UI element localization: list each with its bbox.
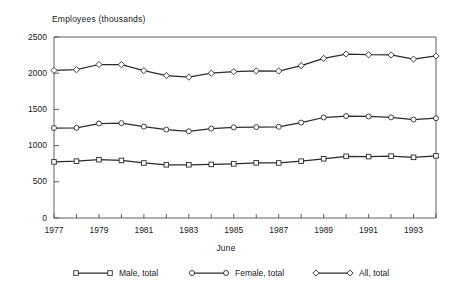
- legend-marker-end: [108, 271, 113, 276]
- data-point-marker: [254, 161, 259, 166]
- y-tick-label: 1000: [17, 140, 47, 150]
- legend-symbol-circle-icon: [188, 267, 230, 279]
- data-point-marker: [97, 157, 102, 162]
- x-tick-label: 1989: [304, 225, 344, 235]
- data-point-marker: [434, 116, 439, 121]
- data-point-marker: [186, 74, 192, 80]
- series-female-total: [52, 114, 439, 134]
- data-point-marker: [231, 125, 236, 130]
- data-point-marker: [186, 129, 191, 134]
- data-point-marker: [298, 62, 304, 68]
- legend-marker-end: [347, 270, 353, 276]
- data-point-marker: [276, 68, 282, 74]
- y-tick-label: 2500: [17, 32, 47, 42]
- data-point-marker: [74, 159, 79, 164]
- x-tick-label: 1977: [34, 225, 74, 235]
- legend-marker-start: [74, 271, 79, 276]
- legend-item-female-total[interactable]: Female, total: [188, 264, 284, 282]
- x-tick-label: 1991: [349, 225, 389, 235]
- x-tick-label: 1993: [394, 225, 434, 235]
- x-tick-label: 1981: [124, 225, 164, 235]
- data-point-marker: [231, 69, 237, 75]
- plot-area: [0, 0, 452, 299]
- series-line: [54, 116, 436, 131]
- series-all-total: [51, 51, 439, 80]
- data-point-marker: [276, 124, 281, 129]
- legend-item-all-total[interactable]: All, total: [312, 264, 389, 282]
- data-point-marker: [299, 159, 304, 164]
- data-series: [51, 51, 439, 167]
- data-point-marker: [96, 121, 101, 126]
- x-tick-label: 1985: [214, 225, 254, 235]
- data-point-marker: [74, 125, 79, 130]
- data-point-marker: [321, 55, 327, 61]
- legend-symbol-diamond-icon: [312, 267, 354, 279]
- legend-label: Female, total: [235, 268, 284, 278]
- legend-label: Male, total: [119, 268, 158, 278]
- x-tick-label: 1979: [79, 225, 119, 235]
- data-point-marker: [231, 162, 236, 167]
- data-point-marker: [343, 51, 349, 57]
- data-point-marker: [164, 162, 169, 167]
- data-point-marker: [411, 155, 416, 160]
- data-point-marker: [119, 121, 124, 126]
- series-male-total: [52, 154, 439, 168]
- data-point-marker: [119, 158, 124, 163]
- data-point-marker: [366, 154, 371, 159]
- data-point-marker: [164, 127, 169, 132]
- data-point-marker: [434, 154, 439, 159]
- data-point-marker: [344, 114, 349, 119]
- data-point-marker: [209, 162, 214, 167]
- data-point-marker: [344, 154, 349, 159]
- data-point-marker: [163, 72, 169, 78]
- chart-legend: Male, totalFemale, totalAll, total: [0, 262, 452, 284]
- legend-item-male-total[interactable]: Male, total: [72, 264, 158, 282]
- legend-marker-start: [190, 271, 195, 276]
- legend-marker-end: [224, 271, 229, 276]
- data-point-marker: [321, 115, 326, 120]
- y-tick-label: 0: [17, 213, 47, 223]
- data-point-marker: [51, 67, 57, 73]
- data-point-marker: [208, 70, 214, 76]
- x-tick-label: 1987: [259, 225, 299, 235]
- data-point-marker: [209, 126, 214, 131]
- data-point-marker: [410, 56, 416, 62]
- data-point-marker: [388, 52, 394, 58]
- data-point-marker: [253, 68, 259, 74]
- data-point-marker: [411, 117, 416, 122]
- data-point-marker: [142, 161, 147, 166]
- legend-marker-start: [313, 270, 319, 276]
- data-point-marker: [299, 120, 304, 125]
- data-point-marker: [321, 156, 326, 161]
- x-axis-label: June: [0, 243, 452, 253]
- data-point-marker: [141, 68, 147, 74]
- series-line: [54, 156, 436, 165]
- legend-symbol-square-icon: [72, 267, 114, 279]
- data-point-marker: [433, 53, 439, 59]
- y-tick-label: 1500: [17, 104, 47, 114]
- data-point-marker: [52, 160, 57, 165]
- data-point-marker: [276, 161, 281, 166]
- data-point-marker: [141, 124, 146, 129]
- data-point-marker: [254, 125, 259, 130]
- data-point-marker: [52, 126, 57, 131]
- data-point-marker: [118, 62, 124, 68]
- y-tick-label: 500: [17, 176, 47, 186]
- data-point-marker: [366, 114, 371, 119]
- x-axis-ticks: [54, 214, 436, 218]
- line-chart: Employees (thousands) 050010001500200025…: [0, 0, 452, 299]
- legend-label: All, total: [359, 268, 389, 278]
- series-line: [54, 54, 436, 77]
- data-point-marker: [187, 162, 192, 167]
- y-tick-label: 2000: [17, 68, 47, 78]
- data-point-marker: [96, 61, 102, 67]
- x-tick-label: 1983: [169, 225, 209, 235]
- data-point-marker: [389, 154, 394, 159]
- data-point-marker: [365, 52, 371, 58]
- data-point-marker: [73, 67, 79, 73]
- data-point-marker: [389, 115, 394, 120]
